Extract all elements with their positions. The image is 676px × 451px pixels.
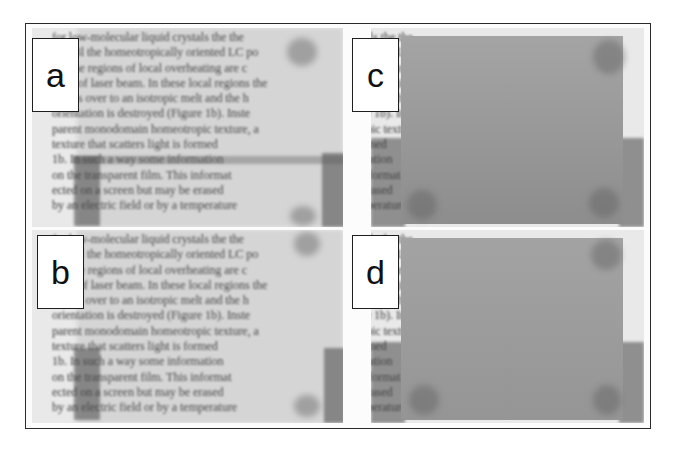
dark-region-left — [74, 156, 100, 226]
overheat-spot — [294, 395, 320, 417]
dark-region-left — [74, 348, 100, 420]
figure-frame: for low-molecular liquid crystals the th… — [25, 23, 651, 429]
overheat-spot — [409, 385, 439, 415]
overheat-spot — [407, 190, 437, 220]
panel-label-d: d — [352, 235, 399, 309]
overheat-spot — [287, 38, 317, 66]
panel-label-c: c — [352, 38, 399, 112]
overheat-spot — [589, 188, 619, 218]
dark-region-right — [322, 153, 343, 227]
dark-region-left — [371, 342, 405, 423]
dark-region-left — [371, 138, 405, 227]
panel-label-a: a — [32, 38, 79, 112]
panel-c: for low-molecular liquid crystals the th… — [371, 28, 644, 227]
panel-d: for low-molecular liquid crystals the th… — [371, 230, 644, 423]
overheat-spot — [294, 232, 320, 256]
dark-region-bottom — [74, 156, 343, 164]
dark-region-right — [324, 348, 343, 423]
overheat-spot — [290, 206, 316, 226]
overheat-spot — [593, 385, 621, 415]
film-tint — [77, 230, 343, 423]
overheat-spot — [593, 40, 625, 74]
overheat-spot — [591, 240, 621, 270]
panel-label-b: b — [37, 235, 84, 309]
